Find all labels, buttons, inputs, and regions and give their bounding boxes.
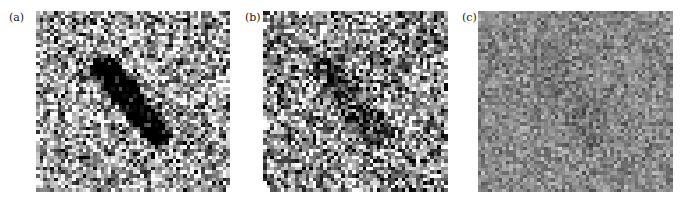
panel-a-label: (a) [9, 12, 24, 23]
figure: (a) (b) (c) [0, 0, 692, 202]
panel-b-image [263, 11, 448, 192]
panel-a-image [36, 11, 230, 192]
panel-b-label: (b) [245, 12, 261, 23]
panel-c-label: (c) [462, 12, 477, 23]
panel-c-image [478, 11, 673, 192]
